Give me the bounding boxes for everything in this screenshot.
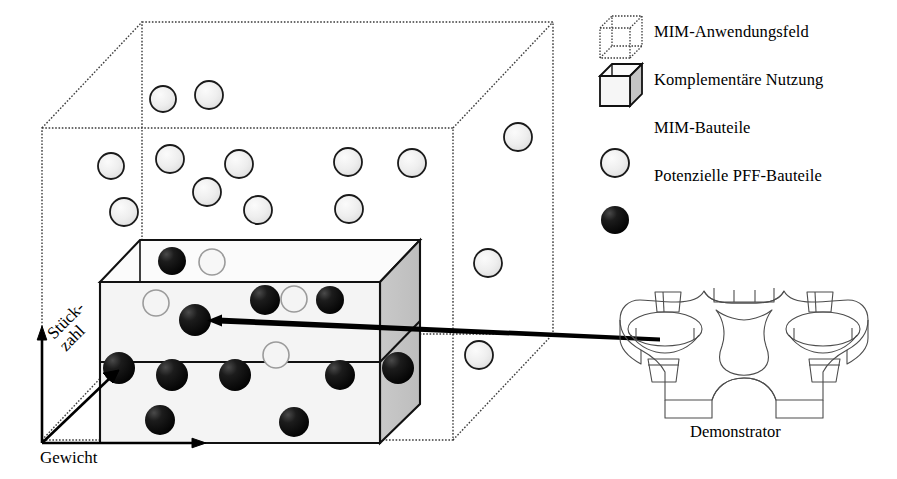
legend: MIM-Anwendungsfeld Komplementäre Nutzung…	[592, 8, 897, 200]
inner-cube-top-face	[100, 240, 420, 282]
mim-sphere	[474, 249, 502, 277]
legend-item-potenzielle-pff-bauteile: Potenzielle PFF-Bauteile	[592, 152, 897, 200]
mim-sphere	[334, 148, 362, 176]
legend-label-mim-bauteile: MIM-Bauteile	[644, 118, 751, 138]
pff-sphere	[279, 407, 309, 437]
pff-sphere	[156, 359, 188, 391]
pff-sphere	[316, 286, 344, 314]
demonstrator-bore-left	[628, 312, 702, 346]
axis-label-gewicht: Gewicht	[40, 448, 98, 468]
demonstrator-top-rim	[704, 291, 784, 303]
legend-label-potenzielle-pff-bauteile: Potenzielle PFF-Bauteile	[644, 166, 822, 186]
demonstrator-part-drawing	[620, 288, 868, 418]
mim-sphere	[335, 195, 363, 223]
mim-sphere	[150, 86, 176, 112]
demonstrator-pocket-ur-rib	[815, 292, 816, 312]
legend-item-komplementaere-nutzung: Komplementäre Nutzung	[592, 56, 897, 104]
demonstrator-pocket-top-mid	[714, 288, 774, 302]
mim-sphere	[225, 150, 253, 178]
mim-sphere	[110, 198, 138, 226]
pff-sphere	[219, 359, 251, 391]
outer-cube-edge-tr	[453, 22, 553, 128]
mim-sphere	[398, 149, 426, 177]
mim-sphere	[98, 153, 124, 179]
legend-dark-sphere-icon	[601, 206, 629, 234]
mim-sphere-inside	[263, 342, 289, 368]
mim-sphere	[156, 145, 184, 173]
pff-sphere	[145, 405, 175, 435]
demonstrator-pocket-ll	[648, 359, 679, 382]
mim-sphere	[193, 178, 221, 206]
demonstrator-bottom-arch	[712, 378, 776, 400]
demonstrator-pocket-lr	[809, 359, 840, 382]
outer-cube-edge-tl	[42, 22, 142, 128]
demonstrator-bore-right	[786, 312, 860, 346]
pff-sphere	[382, 352, 414, 384]
legend-item-mim-bauteile: MIM-Bauteile	[592, 104, 897, 152]
mim-sphere	[244, 196, 272, 224]
pff-sphere	[158, 247, 186, 275]
mim-sphere	[504, 123, 532, 151]
mim-sphere-inside	[143, 290, 169, 316]
legend-item-mim-anwendungsfeld: MIM-Anwendungsfeld	[592, 8, 897, 56]
demonstrator-foot-left	[665, 400, 712, 418]
mim-sphere	[465, 341, 493, 369]
mim-sphere	[195, 81, 223, 109]
pff-sphere	[325, 360, 355, 390]
mim-sphere-inside	[199, 249, 225, 275]
demonstrator-caption: Demonstrator	[690, 422, 781, 442]
legend-label-komplementaere-nutzung: Komplementäre Nutzung	[644, 70, 823, 90]
legend-label-mim-anwendungsfeld: MIM-Anwendungsfeld	[644, 22, 809, 42]
figure-root: MIM-Anwendungsfeld Komplementäre Nutzung…	[0, 0, 897, 479]
demonstrator-pocket-ul-rib	[663, 292, 664, 312]
mim-sphere-inside	[281, 286, 307, 312]
demonstrator-foot-right	[776, 400, 823, 418]
pff-sphere-callout-target	[179, 304, 211, 336]
demonstrator-central-cavity	[716, 310, 772, 375]
pff-sphere	[250, 285, 280, 315]
